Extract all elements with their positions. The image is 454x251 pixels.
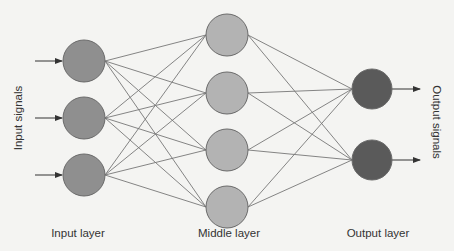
connection-edge [105,175,206,207]
connection-edge [248,35,352,89]
output-layer-label: Output layer [347,227,410,239]
connection-edge [248,89,352,93]
input-layer-label: Input layer [51,227,105,239]
middle-node-2 [206,72,248,114]
neural-network-diagram: Input signals Output signals Input layer… [0,0,454,251]
input-node-3 [63,154,105,196]
middle-layer-label: Middle layer [198,227,260,239]
connection-edges [105,35,352,207]
middle-node-4 [206,186,248,228]
output-node-1 [352,69,392,109]
connection-edge [248,93,352,160]
middle-node-1 [206,14,248,56]
input-signals-label: Input signals [12,85,24,150]
output-node-2 [352,140,392,180]
connection-edge [248,150,352,160]
network-nodes [63,14,392,228]
connection-edge [248,160,352,207]
middle-node-3 [206,129,248,171]
input-node-2 [63,97,105,139]
connection-edge [248,89,352,207]
input-node-1 [63,40,105,82]
output-signals-label: Output signals [431,85,443,159]
